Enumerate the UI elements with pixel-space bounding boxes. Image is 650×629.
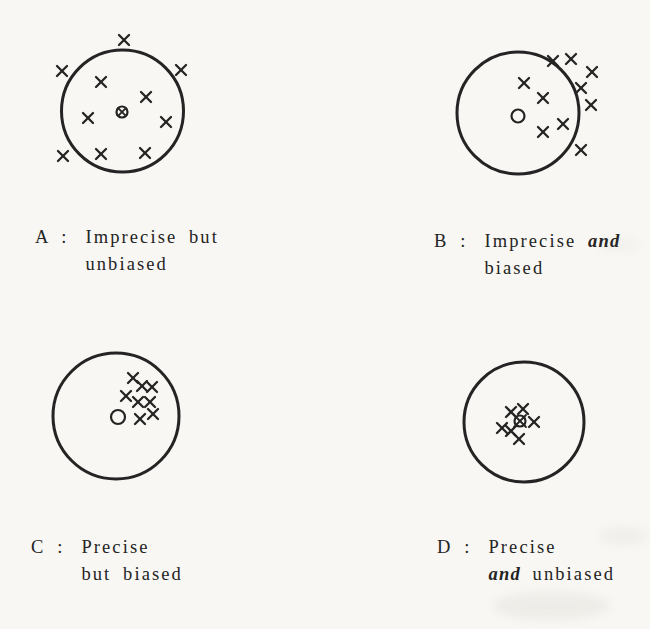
- caption-d-line2: and unbiased: [488, 561, 615, 588]
- caption-c-line2-text: but biased: [81, 564, 183, 584]
- x-mark: [147, 382, 157, 392]
- x-mark: [538, 127, 548, 137]
- caption-letter-a: A :: [35, 224, 68, 278]
- caption-letter-c: C :: [31, 534, 64, 588]
- target-circle-b: [457, 52, 579, 174]
- x-mark: [586, 100, 596, 110]
- x-mark: [558, 119, 568, 129]
- caption-c-line2: but biased: [81, 561, 183, 588]
- paper-smudge: [598, 527, 648, 545]
- x-mark: [57, 66, 67, 76]
- caption-panel-a: A : Imprecise but unbiased: [35, 224, 219, 278]
- x-mark: [161, 117, 171, 127]
- panel-b: [457, 52, 597, 174]
- center-marker-a: [117, 107, 128, 118]
- x-mark: [140, 148, 150, 158]
- x-mark: [141, 92, 151, 102]
- caption-c-line1: Precise: [81, 534, 183, 561]
- paper-smudge: [492, 592, 610, 620]
- caption-panel-c: C : Precise but biased: [31, 534, 183, 588]
- x-mark: [576, 145, 586, 155]
- x-mark: [58, 151, 68, 161]
- caption-letter-d: D :: [437, 534, 471, 588]
- caption-a-line1: Imprecise but: [85, 224, 219, 251]
- center-marker-c: [111, 410, 125, 424]
- x-mark: [176, 65, 186, 75]
- x-mark: [576, 83, 586, 93]
- x-mark: [133, 397, 143, 407]
- x-mark: [145, 397, 155, 407]
- caption-text-b: Imprecise and biased: [484, 228, 620, 282]
- caption-letter-b: B :: [434, 228, 467, 282]
- x-mark: [96, 77, 106, 87]
- paper-smudge: [598, 238, 640, 252]
- x-mark: [135, 414, 145, 424]
- x-mark: [587, 67, 597, 77]
- caption-panel-d: D : Precise and unbiased: [437, 534, 615, 588]
- caption-panel-b: B : Imprecise and biased: [434, 228, 620, 282]
- x-mark: [119, 35, 129, 45]
- caption-b-line2-text: biased: [484, 258, 544, 278]
- center-marker-b: [512, 110, 525, 123]
- x-mark: [148, 409, 158, 419]
- caption-a-line1-text: Imprecise but: [85, 227, 219, 247]
- x-mark: [538, 93, 548, 103]
- caption-d-line2-italic: and: [488, 564, 520, 584]
- caption-d-line1: Precise: [488, 534, 615, 561]
- caption-b-line1-text: Imprecise: [484, 231, 588, 251]
- panel-a: [57, 35, 186, 172]
- figure-precision-bias-diagram: A : Imprecise but unbiased B : Imprecise…: [0, 0, 650, 629]
- x-mark: [519, 78, 529, 88]
- x-mark: [121, 391, 131, 401]
- x-mark: [96, 149, 106, 159]
- caption-d-line2-text: unbiased: [521, 564, 615, 584]
- x-mark: [137, 381, 147, 391]
- x-mark: [83, 113, 93, 123]
- caption-d-line1-text: Precise: [488, 537, 556, 557]
- caption-a-line2-text: unbiased: [85, 254, 168, 274]
- target-circle-c: [53, 353, 179, 479]
- caption-text-c: Precise but biased: [81, 534, 183, 588]
- x-mark: [566, 54, 576, 64]
- center-marker-d: [514, 415, 526, 427]
- x-mark: [514, 434, 524, 444]
- panel-d: [464, 362, 584, 482]
- x-mark: [518, 404, 528, 414]
- caption-text-a: Imprecise but unbiased: [85, 224, 219, 278]
- caption-c-line1-text: Precise: [81, 537, 149, 557]
- x-mark: [497, 423, 507, 433]
- x-mark: [529, 417, 539, 427]
- target-circle-d: [464, 362, 584, 482]
- caption-a-line2: unbiased: [85, 251, 219, 278]
- caption-b-line2: biased: [484, 255, 620, 282]
- caption-text-d: Precise and unbiased: [488, 534, 615, 588]
- panel-c: [53, 353, 179, 479]
